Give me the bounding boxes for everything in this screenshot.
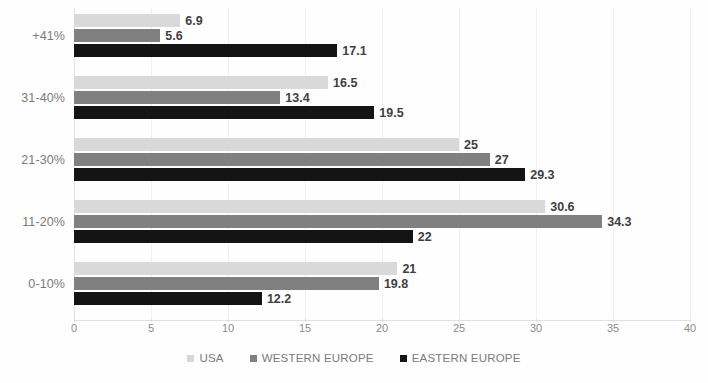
bar-row: 30.6	[74, 200, 545, 213]
category-label: 11-20%	[22, 215, 65, 229]
bar-western-europe[interactable]	[74, 215, 602, 228]
gridline	[690, 8, 691, 320]
bar-usa[interactable]	[74, 262, 397, 275]
bar-value-label: 25	[464, 138, 478, 152]
category-label: 31-40%	[21, 91, 65, 105]
bar-value-label: 34.3	[607, 215, 631, 229]
bar-row: 12.2	[74, 292, 262, 305]
x-axis-tick-labels: 0510152025303540	[74, 322, 690, 340]
x-tick-label: 5	[148, 322, 154, 334]
bar-value-label: 19.8	[384, 277, 408, 291]
bar-value-label: 12.2	[267, 292, 291, 306]
bar-group: +41%6.95.617.1	[74, 14, 690, 58]
bar-row: 5.6	[74, 29, 160, 42]
bar-value-label: 16.5	[333, 76, 357, 90]
legend-swatch-icon	[400, 355, 407, 362]
bar-value-label: 6.9	[185, 14, 202, 28]
bar-group: 11-20%30.634.322	[74, 200, 690, 244]
bar-usa[interactable]	[74, 14, 180, 27]
bar-value-label: 30.6	[550, 200, 574, 214]
bar-row: 21	[74, 262, 397, 275]
bar-value-label: 19.5	[379, 106, 403, 120]
x-tick-label: 30	[530, 322, 542, 334]
bar-row: 16.5	[74, 76, 328, 89]
legend-item-western-europe[interactable]: WESTERN EUROPE	[250, 352, 374, 364]
x-tick-label: 0	[71, 322, 77, 334]
legend-label: WESTERN EUROPE	[262, 352, 374, 364]
bar-value-label: 27	[495, 153, 509, 167]
legend-label: EASTERN EUROPE	[412, 352, 521, 364]
x-tick-label: 20	[376, 322, 388, 334]
x-tick-label: 35	[607, 322, 619, 334]
bar-group: 0-10%2119.812.2	[74, 262, 690, 306]
bar-western-europe[interactable]	[74, 91, 280, 104]
bar-value-label: 22	[418, 230, 432, 244]
bar-western-europe[interactable]	[74, 153, 490, 166]
bar-row: 22	[74, 230, 413, 243]
bar-usa[interactable]	[74, 138, 459, 151]
bar-row: 25	[74, 138, 459, 151]
legend-label: USA	[199, 352, 223, 364]
category-label: +41%	[32, 29, 65, 43]
x-tick-label: 15	[299, 322, 311, 334]
bar-row: 19.8	[74, 277, 379, 290]
bar-western-europe[interactable]	[74, 29, 160, 42]
legend-item-eastern-europe[interactable]: EASTERN EUROPE	[400, 352, 521, 364]
chart-legend: USAWESTERN EUROPEEASTERN EUROPE	[0, 352, 708, 364]
bar-usa[interactable]	[74, 76, 328, 89]
bar-chart: +41%6.95.617.131-40%16.513.419.521-30%25…	[0, 0, 708, 383]
bar-value-label: 21	[402, 262, 416, 276]
bar-row: 29.3	[74, 168, 525, 181]
x-tick-label: 10	[222, 322, 234, 334]
category-label: 21-30%	[21, 153, 65, 167]
legend-item-usa[interactable]: USA	[187, 352, 223, 364]
bar-row: 19.5	[74, 106, 374, 119]
legend-swatch-icon	[187, 355, 194, 362]
bar-row: 27	[74, 153, 490, 166]
bar-usa[interactable]	[74, 200, 545, 213]
category-label: 0-10%	[28, 277, 65, 291]
bar-value-label: 5.6	[165, 29, 182, 43]
x-tick-label: 25	[453, 322, 465, 334]
bar-eastern-europe[interactable]	[74, 292, 262, 305]
bar-row: 34.3	[74, 215, 602, 228]
bar-group: 21-30%252729.3	[74, 138, 690, 182]
legend-swatch-icon	[250, 355, 257, 362]
bar-row: 6.9	[74, 14, 180, 27]
bar-western-europe[interactable]	[74, 277, 379, 290]
bar-value-label: 29.3	[530, 168, 554, 182]
bar-eastern-europe[interactable]	[74, 168, 525, 181]
plot-area: +41%6.95.617.131-40%16.513.419.521-30%25…	[74, 8, 690, 320]
bar-eastern-europe[interactable]	[74, 230, 413, 243]
bar-group: 31-40%16.513.419.5	[74, 76, 690, 120]
bar-value-label: 17.1	[342, 44, 366, 58]
bar-row: 13.4	[74, 91, 280, 104]
bar-value-label: 13.4	[285, 91, 309, 105]
bar-eastern-europe[interactable]	[74, 106, 374, 119]
bar-eastern-europe[interactable]	[74, 44, 337, 57]
x-tick-label: 40	[684, 322, 696, 334]
bar-row: 17.1	[74, 44, 337, 57]
